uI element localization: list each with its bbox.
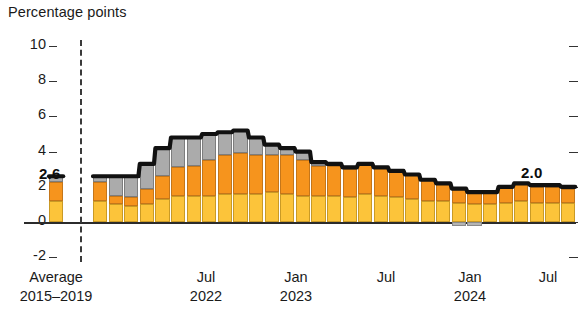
- bar-segment-yellow: [171, 196, 185, 222]
- average-value-label: 2.6: [39, 165, 60, 182]
- x-label-month: Average: [11, 268, 101, 287]
- bar-segment-yellow: [249, 194, 263, 222]
- bar-segment-orange: [483, 192, 497, 204]
- x-axis-tick-label: Jul: [503, 268, 580, 287]
- bar-segment-yellow: [421, 201, 435, 222]
- bar-segment-yellow: [280, 194, 294, 222]
- bar-segment-orange: [155, 176, 169, 199]
- bar-segment-orange: [49, 182, 63, 201]
- bar-segment-orange: [109, 196, 123, 205]
- bar-segment-yellow: [467, 204, 481, 222]
- bar-segment-gray: [561, 187, 575, 189]
- endpoint-value-label: 2.0: [521, 164, 542, 181]
- bar-segment-orange: [343, 169, 357, 197]
- bar-segment-yellow: [124, 206, 138, 222]
- average-divider: [80, 40, 82, 262]
- bar-segment-orange: [452, 189, 466, 203]
- bar-segment-yellow: [202, 196, 216, 222]
- bar-segment-gray: [280, 148, 294, 155]
- bar-segment-gray: [327, 164, 341, 166]
- bar-period: [140, 0, 154, 315]
- bar-segment-orange: [124, 197, 138, 206]
- bar-segment-yellow: [561, 203, 575, 222]
- bar-segment-gray: [311, 162, 325, 166]
- x-label-month: Jul: [341, 268, 431, 287]
- bar-segment-yellow: [358, 194, 372, 222]
- bar-segment-orange: [311, 166, 325, 196]
- bar-segment-orange: [358, 164, 372, 194]
- bar-segment-orange: [93, 182, 107, 201]
- bar-segment-yellow: [187, 196, 201, 222]
- bar-segment-yellow: [327, 196, 341, 222]
- bar-segment-yellow: [374, 196, 388, 222]
- x-label-year: 2022: [161, 287, 251, 306]
- bar-segment-orange: [218, 155, 232, 194]
- bar-segment-orange: [187, 166, 201, 196]
- bar-segment-yellow: [233, 194, 247, 222]
- bar-segment-yellow: [483, 204, 497, 222]
- x-label-month: Jan: [425, 268, 515, 287]
- bar-segment-gray: [530, 185, 544, 187]
- bar-segment-yellow: [49, 201, 63, 222]
- bar-segment-yellow: [218, 194, 232, 222]
- bar-segment-orange: [389, 171, 403, 197]
- x-label-month: Jul: [503, 268, 580, 287]
- bar-segment-yellow: [389, 197, 403, 222]
- bar-segment-yellow: [109, 204, 123, 222]
- bar-segment-gray: [249, 138, 263, 156]
- bar-segment-yellow: [514, 201, 528, 222]
- bar-segment-orange: [171, 167, 185, 195]
- bar-segment-gray: [265, 145, 279, 156]
- bar-period: [124, 0, 138, 315]
- x-axis-tick-label: Jul: [341, 268, 431, 287]
- bar-segment-orange: [265, 155, 279, 192]
- chart-container: Percentage points 1086420-2 2.6 2.0 Aver…: [0, 0, 580, 315]
- x-label-month: Jan: [251, 268, 341, 287]
- bar-segment-orange: [436, 183, 450, 201]
- bar-segment-orange: [514, 183, 528, 201]
- x-label-year: 2023: [251, 287, 341, 306]
- bar-segment-orange: [499, 187, 513, 203]
- bar-segment-gray: [155, 148, 169, 176]
- bar-segment-yellow: [545, 203, 559, 222]
- bar-segment-gray: [296, 152, 310, 161]
- bar-segment-gray: [109, 176, 123, 195]
- bar-segment-gray: [202, 134, 216, 160]
- bar-segment-yellow: [265, 192, 279, 222]
- bar-segment-gray: [93, 176, 107, 181]
- bar-segment-orange: [561, 189, 575, 203]
- bar-segment-gray: [343, 167, 357, 169]
- bar-segment-yellow: [530, 203, 544, 222]
- bar-segment-gray: [140, 164, 154, 189]
- bar-segment-orange: [327, 166, 341, 196]
- bar-segment-orange: [374, 167, 388, 195]
- bar-segment-yellow: [452, 203, 466, 222]
- bar-period: [109, 0, 123, 315]
- bar-segment-orange: [296, 160, 310, 195]
- bar-segment-gray: [218, 132, 232, 155]
- bar-segment-orange: [405, 174, 419, 199]
- bar-segment-gray: [233, 130, 247, 153]
- bar-segment-gray-negative: [452, 222, 466, 226]
- x-axis-tick-label: Jan2023: [251, 268, 341, 306]
- x-label-year: 2024: [425, 287, 515, 306]
- bar-segment-yellow: [140, 204, 154, 222]
- x-label-month: Jul: [161, 268, 251, 287]
- bar-segment-gray-negative: [467, 222, 481, 226]
- bar-segment-yellow: [155, 199, 169, 222]
- bar-segment-yellow: [296, 196, 310, 222]
- bar-segment-orange: [140, 189, 154, 205]
- bar-segment-gray: [187, 138, 201, 166]
- bar-segment-gray: [171, 138, 185, 168]
- x-label-year: 2015–2019: [11, 287, 101, 306]
- bar-segment-gray: [545, 185, 559, 187]
- bar-segment-gray: [124, 176, 138, 197]
- bar-segment-yellow: [343, 197, 357, 222]
- x-axis-tick-label: Average2015–2019: [11, 268, 101, 306]
- bar-segment-orange: [280, 155, 294, 194]
- bar-segment-orange: [202, 160, 216, 195]
- bar-segment-yellow: [311, 196, 325, 222]
- bar-segment-yellow: [93, 201, 107, 222]
- bar-segment-yellow: [499, 203, 513, 222]
- bar-segment-orange: [530, 187, 544, 203]
